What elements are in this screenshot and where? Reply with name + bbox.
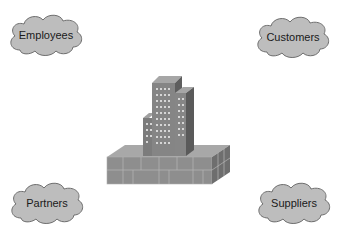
cloud-label: Suppliers	[254, 197, 334, 209]
cloud-label: Employees	[6, 29, 86, 41]
cloud-label: Partners	[7, 197, 87, 209]
cloud-suppliers: Suppliers	[254, 180, 334, 226]
cloud-partners: Partners	[7, 180, 87, 226]
office-building-icon	[105, 75, 235, 194]
cloud-employees: Employees	[6, 12, 86, 58]
cloud-label: Customers	[253, 31, 333, 43]
cloud-customers: Customers	[253, 14, 333, 60]
